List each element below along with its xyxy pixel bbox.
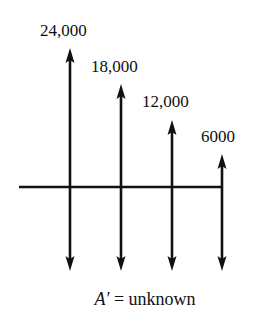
equals-sign: =: [109, 289, 128, 309]
cash-flow-diagram: 24,00018,00012,0006000 A′ = unknown: [0, 0, 256, 319]
payment-arrow: [117, 187, 126, 271]
receipt-label: 18,000: [91, 57, 138, 76]
annuity-caption: A′ = unknown: [93, 289, 195, 309]
receipt-arrows: [66, 48, 227, 187]
annuity-symbol: A′: [93, 289, 110, 309]
payment-arrow: [168, 187, 177, 271]
annuity-value: unknown: [129, 289, 196, 309]
receipt-arrow: [66, 48, 75, 187]
receipt-arrow: [168, 120, 177, 187]
receipt-label: 12,000: [142, 92, 189, 111]
payment-arrows: [66, 187, 227, 271]
receipt-label: 24,000: [40, 21, 87, 40]
payment-arrow: [218, 187, 227, 271]
receipt-arrow: [218, 154, 227, 187]
payment-arrow: [66, 187, 75, 271]
receipt-label: 6000: [201, 127, 235, 146]
receipt-arrow: [117, 84, 126, 187]
